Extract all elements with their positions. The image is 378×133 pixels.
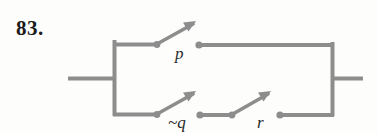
switch-not-q-pivot-dot: [154, 111, 161, 118]
top-branch: [113, 21, 334, 49]
switch-r-pivot-dot: [229, 112, 236, 119]
switch-p-label: p: [174, 44, 184, 63]
diagram-page: 83.: [0, 0, 378, 133]
switch-p-pivot-dot: [154, 41, 161, 48]
switch-r[interactable]: [229, 91, 271, 118]
switch-not-q-label: ~q: [168, 113, 186, 132]
switching-circuit-diagram: p ~q r: [0, 0, 378, 133]
bottom-branch: [113, 91, 334, 119]
switch-r-label: r: [257, 113, 264, 132]
circuit-frame: [115, 40, 333, 116]
